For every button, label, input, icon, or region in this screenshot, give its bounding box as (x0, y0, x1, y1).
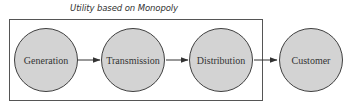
node-label: Generation (24, 55, 68, 66)
node-distribution: Distribution (189, 28, 253, 92)
node-transmission: Transmission (101, 28, 165, 92)
node-label: Distribution (197, 55, 245, 66)
diagram-canvas: Utility based on Monopoly Generation Tra… (0, 0, 352, 106)
node-label: Customer (292, 55, 331, 66)
node-customer: Customer (279, 28, 343, 92)
node-label: Transmission (106, 55, 160, 66)
node-generation: Generation (14, 28, 78, 92)
